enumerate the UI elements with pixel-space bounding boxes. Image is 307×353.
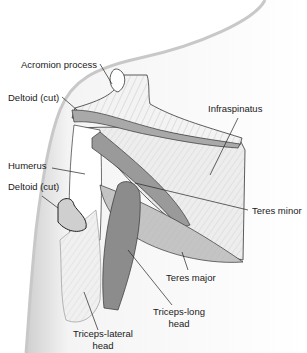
anatomy-illustration [0,0,307,353]
label-deltoid-cut-bottom: Deltoid (cut) [8,181,59,192]
shoulder-anatomy-diagram: Acromion process Deltoid (cut) Infraspin… [0,0,307,353]
label-triceps-long-line2: head [150,318,208,329]
label-infraspinatus: Infraspinatus [208,103,262,114]
label-triceps-lateral-line1: Triceps-lateral [70,328,136,339]
label-humerus: Humerus [8,160,47,171]
label-triceps-long-line1: Triceps-long [150,306,208,317]
label-acromion-process: Acromion process [21,59,97,70]
label-teres-minor: Teres minor [252,205,302,216]
label-teres-major: Teres major [166,272,216,283]
label-deltoid-cut-top: Deltoid (cut) [8,92,59,103]
label-triceps-lateral-line2: head [70,340,136,351]
